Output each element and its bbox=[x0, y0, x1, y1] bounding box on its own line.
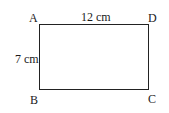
vertex-d-label: D bbox=[148, 12, 157, 24]
vertex-a-label: A bbox=[29, 12, 38, 24]
rectangle-abcd bbox=[39, 24, 149, 90]
vertex-b-label: B bbox=[30, 94, 38, 106]
vertex-c-label: C bbox=[148, 93, 156, 105]
left-side-length-label: 7 cm bbox=[15, 53, 39, 65]
top-side-length-label: 12 cm bbox=[81, 11, 111, 23]
